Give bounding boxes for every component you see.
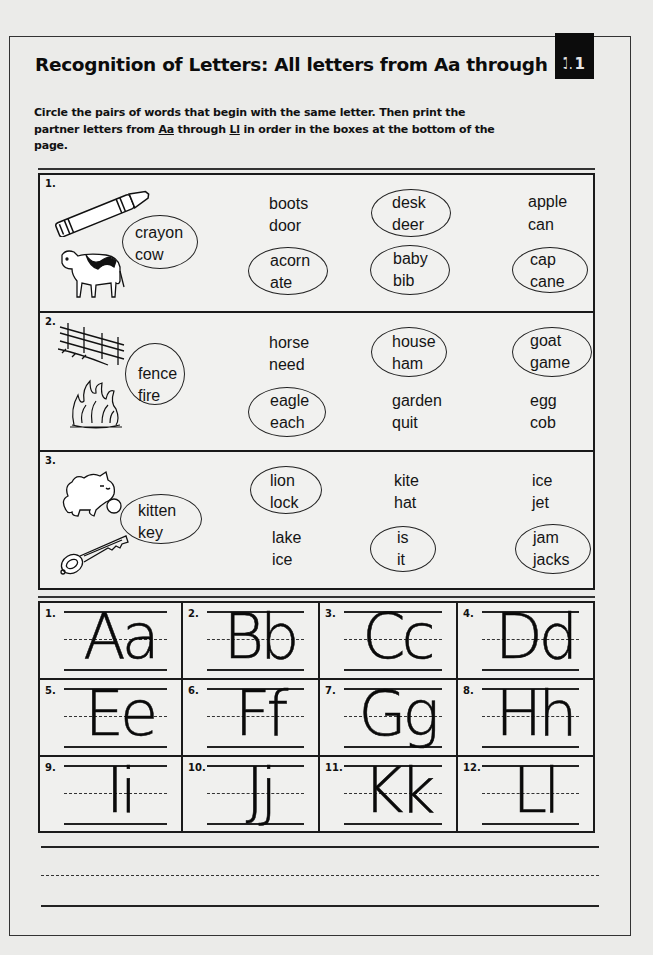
picture-word: crayon xyxy=(135,222,183,244)
box-number: 4. xyxy=(463,608,474,619)
word[interactable]: game xyxy=(530,352,570,374)
box-number: 10. xyxy=(188,762,206,773)
word[interactable]: lake xyxy=(272,527,301,549)
word[interactable]: cob xyxy=(530,412,556,434)
letter-pair: Aa xyxy=(68,603,171,671)
box-number: 1. xyxy=(45,608,56,619)
word[interactable]: ate xyxy=(270,272,292,294)
exercise-number: 3. xyxy=(45,455,56,466)
picture-word: key xyxy=(138,522,163,544)
instructions-underlined-start: Aa xyxy=(158,123,174,136)
box-number: 2. xyxy=(188,608,199,619)
letter-pair: Hh xyxy=(486,680,583,748)
word[interactable]: lion xyxy=(270,470,295,492)
letter-pair: Bb xyxy=(211,603,308,671)
word[interactable]: door xyxy=(269,215,301,237)
fence-icon xyxy=(58,319,130,375)
instructions-underlined-end: Ll xyxy=(229,123,239,136)
word[interactable]: deer xyxy=(392,214,424,236)
box-number: 9. xyxy=(45,762,56,773)
word[interactable]: eagle xyxy=(270,390,309,412)
word[interactable]: jet xyxy=(532,492,549,514)
box-number: 6. xyxy=(188,685,199,696)
letter-box-6[interactable]: 6.Ff xyxy=(183,680,320,757)
letter-pair: Kk xyxy=(348,757,446,825)
divider xyxy=(38,168,595,170)
letter-pair: Gg xyxy=(348,680,446,748)
word[interactable]: need xyxy=(269,354,305,376)
letter-pair: Ee xyxy=(68,680,171,748)
letter-pair: Dd xyxy=(486,603,583,671)
instructions-text: through xyxy=(174,123,229,136)
box-number: 3. xyxy=(325,608,336,619)
word[interactable]: boots xyxy=(269,193,308,215)
letter-box-7[interactable]: 7.Gg xyxy=(320,680,458,757)
word[interactable]: horse xyxy=(269,332,309,354)
word[interactable]: house xyxy=(392,331,436,353)
fire-icon xyxy=(68,379,124,431)
letter-box-2[interactable]: 2.Bb xyxy=(183,603,320,680)
word[interactable]: it xyxy=(397,549,405,571)
instructions: Circle the pairs of words that begin wit… xyxy=(34,105,514,155)
letter-box-5[interactable]: 5.Ee xyxy=(40,680,183,757)
exercise-2: 2. fence fire horse need house ham goat … xyxy=(38,311,595,452)
writing-line-top xyxy=(41,846,599,848)
writing-line-middle xyxy=(41,875,599,876)
page-title: Recognition of Letters: All letters from… xyxy=(35,54,571,75)
word[interactable]: cap xyxy=(530,249,556,271)
letter-box-11[interactable]: 11.Kk xyxy=(320,757,458,831)
box-number: 8. xyxy=(463,685,474,696)
box-number: 7. xyxy=(325,685,336,696)
letter-box-1[interactable]: 1.Aa xyxy=(40,603,183,680)
letter-pair: Cc xyxy=(348,603,446,671)
word[interactable]: garden xyxy=(392,390,442,412)
letter-grid: 1.Aa 2.Bb 3.Cc 4.Dd 5.Ee 6.Ff 7.Gg 8.Hh … xyxy=(38,601,595,833)
word[interactable]: quit xyxy=(392,412,418,434)
exercise-3: 3. kitten key lion lock kite hat ice jet… xyxy=(38,450,595,590)
cow-icon xyxy=(58,247,126,302)
picture-word: fire xyxy=(138,385,160,407)
word[interactable]: is xyxy=(397,527,409,549)
letter-box-8[interactable]: 8.Hh xyxy=(458,680,593,757)
box-number: 5. xyxy=(45,685,56,696)
letter-pair: Ii xyxy=(68,757,171,825)
word[interactable]: lock xyxy=(270,492,298,514)
word[interactable]: each xyxy=(270,412,305,434)
letter-pair: Ll xyxy=(486,757,583,825)
word[interactable]: desk xyxy=(392,192,426,214)
word[interactable]: ice xyxy=(272,549,292,571)
word[interactable]: acorn xyxy=(270,250,310,272)
word[interactable]: hat xyxy=(394,492,416,514)
exercise-1: 1. crayon cow boots door desk deer apple… xyxy=(38,173,595,313)
picture-word: cow xyxy=(135,244,163,266)
word[interactable]: cane xyxy=(530,271,565,293)
word[interactable]: goat xyxy=(530,330,561,352)
word[interactable]: jam xyxy=(533,527,559,549)
letter-box-4[interactable]: 4.Dd xyxy=(458,603,593,680)
word[interactable]: bib xyxy=(393,270,414,292)
word[interactable]: can xyxy=(528,214,554,236)
box-number: 12. xyxy=(463,762,481,773)
picture-word: kitten xyxy=(138,500,176,522)
word[interactable]: jacks xyxy=(533,549,569,571)
word[interactable]: kite xyxy=(394,470,419,492)
word[interactable]: baby xyxy=(393,248,428,270)
letter-box-10[interactable]: 10.Jj xyxy=(183,757,320,831)
letter-box-9[interactable]: 9.Ii xyxy=(40,757,183,831)
letter-pair: Jj xyxy=(211,757,308,825)
divider xyxy=(38,596,595,598)
box-number: 11. xyxy=(325,762,343,773)
letter-box-12[interactable]: 12.Ll xyxy=(458,757,593,831)
exercise-number: 2. xyxy=(45,316,56,327)
writing-line-bottom xyxy=(41,905,599,907)
kitten-icon xyxy=(60,470,126,522)
letter-pair: Ff xyxy=(211,680,308,748)
letter-box-3[interactable]: 3.Cc xyxy=(320,603,458,680)
word[interactable]: apple xyxy=(528,191,567,213)
word[interactable]: egg xyxy=(530,390,557,412)
key-icon xyxy=(58,532,132,576)
word[interactable]: ham xyxy=(392,353,423,375)
word[interactable]: ice xyxy=(532,470,552,492)
picture-word: fence xyxy=(138,363,177,385)
